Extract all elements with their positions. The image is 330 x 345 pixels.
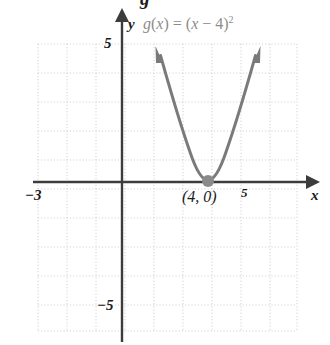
curve-arrow-right bbox=[253, 46, 261, 63]
grid-lines bbox=[38, 44, 297, 331]
fn-minus: − bbox=[202, 15, 211, 32]
y-tick-label-neg5: −5 bbox=[97, 298, 114, 313]
fn-name: g bbox=[143, 15, 151, 32]
fn-paren-close: ) bbox=[163, 15, 168, 32]
y-axis-label: y bbox=[128, 17, 135, 32]
curve-arrow-left bbox=[156, 46, 164, 63]
vertex-label: (4, 0) bbox=[182, 189, 217, 205]
x-tick-label-5: 5 bbox=[241, 186, 248, 199]
x-tick-label-neg3: −3 bbox=[25, 188, 42, 203]
figure-container: g bbox=[0, 0, 330, 345]
fn-body-var: x bbox=[191, 15, 198, 32]
graph-canvas bbox=[0, 0, 330, 345]
y-tick-label-5: 5 bbox=[104, 36, 112, 51]
vertex-dot bbox=[202, 175, 214, 187]
x-axis-label: x bbox=[311, 188, 319, 203]
fn-equals: = bbox=[173, 15, 182, 32]
function-equation-label: g(x) = (x − 4)2 bbox=[143, 15, 234, 32]
fn-exponent: 2 bbox=[229, 14, 234, 25]
